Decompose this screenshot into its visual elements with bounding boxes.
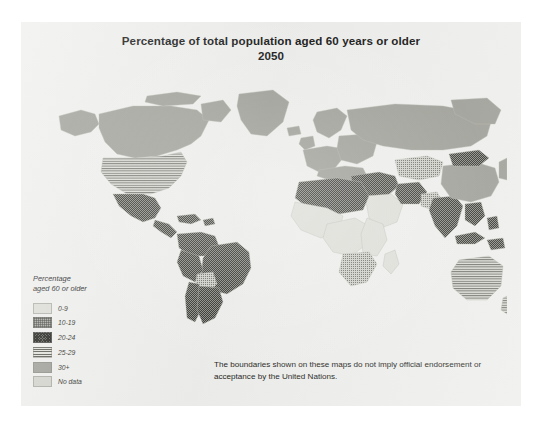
region-southeast-asia [465,202,485,226]
light-solid-swatch [33,303,52,314]
region-alaska [59,110,99,136]
page-title-year: 2050 [21,48,521,63]
map-legend: Percentage aged 60 or older 0-9 10-19 20… [33,274,143,390]
region-southern-africa [339,252,377,286]
region-hispaniola [203,218,215,226]
legend-label-25-29: 25-29 [58,349,75,356]
region-scandinavia [313,108,347,138]
region-mongolia [449,150,489,166]
region-argentina [197,286,223,324]
dark-crosshatch-swatch [33,332,52,343]
page-title: Percentage of total population aged 60 y… [21,33,521,63]
legend-label-20-24: 20-24 [58,334,75,341]
no-data-swatch [33,376,52,387]
legend-item-no-data: No data [33,375,143,388]
region-new-zealand [501,296,507,314]
medium-solid-swatch [33,362,52,373]
legend-label-30-plus: 30+ [58,364,70,371]
region-australia [451,256,503,300]
region-madagascar [383,250,399,274]
legend-item-25-29: 25-29 [33,346,143,359]
region-british-isles [299,136,315,150]
region-greenland [237,90,289,136]
region-arctic-islands [145,92,201,106]
region-central-asia [395,156,443,180]
page-title-line1: Percentage of total population aged 60 y… [122,34,420,47]
region-caribbean [177,214,201,224]
region-iceland [287,126,301,136]
region-canada [99,106,209,158]
legend-label-0-9: 0-9 [58,305,68,312]
legend-item-10-19: 10-19 [33,317,143,330]
region-india [429,196,463,238]
legend-item-20-24: 20-24 [33,331,143,344]
region-korea-japan [499,158,507,180]
region-mexico [113,194,161,222]
legend-item-0-9: 0-9 [33,302,143,315]
legend-label-no-data: No data [58,378,82,385]
region-baffin [201,100,231,122]
region-china [441,162,499,202]
map-disclaimer-footnote: The boundaries shown on these maps do no… [214,359,514,382]
map-page: Percentage of total population aged 60 y… [21,22,521,406]
dotted-grid-swatch [33,317,52,328]
region-united-states [101,152,187,194]
region-philippines [487,216,499,230]
legend-item-30-plus: 30+ [33,361,143,374]
region-new-guinea [487,238,505,250]
horizontal-stripe-swatch [33,347,52,358]
legend-label-10-19: 10-19 [58,319,75,326]
region-indonesia [455,232,485,244]
region-central-america [153,220,177,238]
legend-heading: Percentage aged 60 or older [33,274,143,294]
